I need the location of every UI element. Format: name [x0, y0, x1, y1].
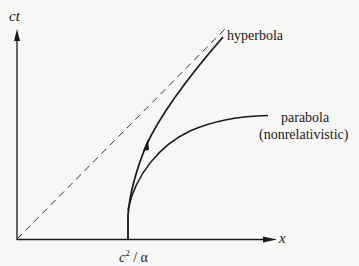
over-alpha: / α	[130, 250, 148, 265]
parabola-curve	[128, 116, 268, 211]
light-cone-asymptote	[17, 28, 226, 239]
direction-arrow-icon	[143, 139, 149, 151]
ct-axis-arrowhead-icon	[14, 29, 20, 41]
hyperbola-curve	[128, 37, 223, 239]
nonrelativistic-label: (nonrelativistic)	[259, 127, 348, 143]
ct-axis-label: ct	[9, 8, 20, 25]
hyperbola-label: hyperbola	[227, 28, 283, 44]
x-axis-label: x	[279, 230, 286, 247]
spacetime-diagram: ct x hyperbola parabola (nonrelativistic…	[0, 0, 359, 266]
x-axis-arrowhead-icon	[263, 237, 277, 243]
start-position-label: c2 / α	[119, 248, 148, 266]
parabola-label: parabola	[281, 110, 329, 126]
